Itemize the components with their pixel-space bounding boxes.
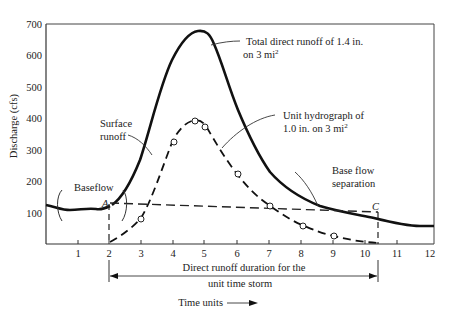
point-a-label: A: [101, 198, 109, 209]
unit-hydrograph-label-line2: 1.0 in. on 3 mi2: [283, 122, 348, 134]
y-axis-ticks: 700 600 500 400 300 200 100: [26, 19, 42, 219]
surface-runoff-leader: [128, 135, 152, 155]
x-tick-9: 9: [330, 248, 335, 259]
y-tick-500: 500: [26, 82, 42, 93]
y-axis-label: Discharge (cfs): [8, 93, 20, 158]
x-tick-7: 7: [266, 248, 271, 259]
x-tick-12: 12: [425, 248, 436, 259]
y-tick-700: 700: [26, 19, 42, 30]
point-c-label: C: [372, 201, 380, 212]
baseflow-label: Baseflow: [74, 182, 114, 193]
x-tick-3: 3: [138, 248, 143, 259]
marker-t4-7: [192, 118, 198, 124]
bfsep-label-line1: Base flow: [332, 165, 375, 176]
baseflow-separation-line: [110, 203, 378, 212]
total-runoff-label-line2: on 3 mi2: [243, 48, 279, 60]
total-runoff-label-line1: Total direct runoff of 1.4 in.: [246, 36, 363, 47]
unit-hydrograph-label-line1: Unit hydrograph of: [283, 110, 365, 121]
y-tick-600: 600: [26, 50, 42, 61]
surface-runoff-label-line2: runoff: [100, 131, 127, 142]
baseflow-brace-left: [58, 190, 63, 221]
x-tick-1: 1: [75, 248, 80, 259]
y-tick-200: 200: [26, 176, 42, 187]
y-tick-400: 400: [26, 113, 42, 124]
marker-t3: [138, 216, 144, 222]
x-tick-4: 4: [170, 248, 176, 259]
x-tick-5: 5: [201, 248, 206, 259]
x-tick-10: 10: [360, 248, 371, 259]
x-tick-8: 8: [298, 248, 303, 259]
marker-t7: [267, 203, 273, 209]
x-axis-arrow-icon: [227, 300, 258, 306]
unit-hydrograph-chart: 700 600 500 400 300 200 100 Discharge (c…: [0, 0, 452, 309]
marker-t8: [300, 223, 306, 229]
duration-label-line2: unit time storm: [208, 278, 272, 289]
x-axis-ticks: 1 2 3 4 5 6 7 8 9 10 11 12: [75, 248, 435, 259]
x-tick-2: 2: [106, 248, 111, 259]
marker-t6: [235, 171, 241, 177]
x-axis-label: Time units: [178, 297, 223, 308]
marker-t5: [202, 124, 208, 130]
duration-label-line1: Direct runoff duration for the: [183, 262, 306, 273]
bfsep-label-line2: separation: [332, 178, 376, 189]
x-tick-11: 11: [392, 248, 402, 259]
y-tick-100: 100: [26, 208, 42, 219]
unit-hydrograph-markers: [138, 118, 337, 239]
marker-t9: [331, 233, 337, 239]
x-tick-6: 6: [234, 248, 239, 259]
y-tick-300: 300: [26, 145, 42, 156]
marker-t4: [171, 139, 177, 145]
surface-runoff-label-line1: Surface: [100, 118, 132, 129]
